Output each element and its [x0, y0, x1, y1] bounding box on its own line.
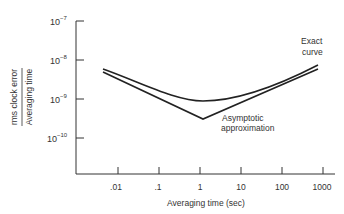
- asymptotic-annotation: Asymptotic approximation: [221, 113, 275, 133]
- y-axis-label: rms clock error Averaging time: [9, 68, 34, 126]
- svg-text:Asymptotic: Asymptotic: [222, 113, 264, 123]
- svg-text:10−7: 10−7: [50, 15, 68, 27]
- chart: 10−7 10−8 10−9 10−10 .01 .1 1 10 100 100…: [0, 0, 344, 214]
- svg-text:.01: .01: [110, 182, 122, 192]
- svg-text:1: 1: [198, 182, 203, 192]
- x-tick-labels: .01 .1 1 10 100 1000: [110, 182, 332, 192]
- svg-text:10−9: 10−9: [50, 93, 68, 105]
- asymptotic-approximation-line: [103, 69, 318, 119]
- y-tick-labels: 10−7 10−8 10−9 10−10: [47, 15, 68, 144]
- x-axis-label: Averaging time (sec): [167, 198, 245, 208]
- svg-text:curve: curve: [302, 47, 323, 57]
- svg-text:1000: 1000: [313, 182, 332, 192]
- svg-text:Averaging time: Averaging time: [24, 68, 34, 125]
- svg-text:100: 100: [275, 182, 289, 192]
- svg-text:10−10: 10−10: [47, 132, 68, 144]
- x-ticks: [118, 167, 323, 174]
- svg-text:.1: .1: [154, 182, 161, 192]
- svg-text:Exact: Exact: [301, 36, 323, 46]
- svg-text:approximation: approximation: [221, 123, 275, 133]
- svg-text:10: 10: [236, 182, 246, 192]
- exact-curve-annotation: Exact curve: [301, 36, 323, 57]
- svg-text:10−8: 10−8: [50, 54, 68, 66]
- svg-text:rms clock error: rms clock error: [9, 69, 19, 125]
- y-ticks: [76, 21, 84, 138]
